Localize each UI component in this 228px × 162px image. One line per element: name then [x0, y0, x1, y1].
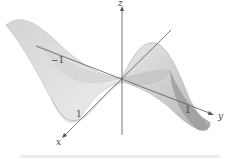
surface-plot: z x y 1 1 −1 — [0, 0, 228, 162]
y-arrow-icon — [208, 111, 214, 115]
surface-plot-svg — [0, 0, 228, 162]
z-axis-label: z — [118, 0, 123, 8]
x-tick-label: 1 — [76, 110, 82, 119]
figure-caption-cutoff — [20, 155, 220, 158]
y-axis-label: y — [218, 112, 223, 121]
neg-tick-label: −1 — [51, 56, 64, 65]
y-tick-label: 1 — [185, 106, 191, 115]
x-axis-label: x — [56, 138, 61, 147]
